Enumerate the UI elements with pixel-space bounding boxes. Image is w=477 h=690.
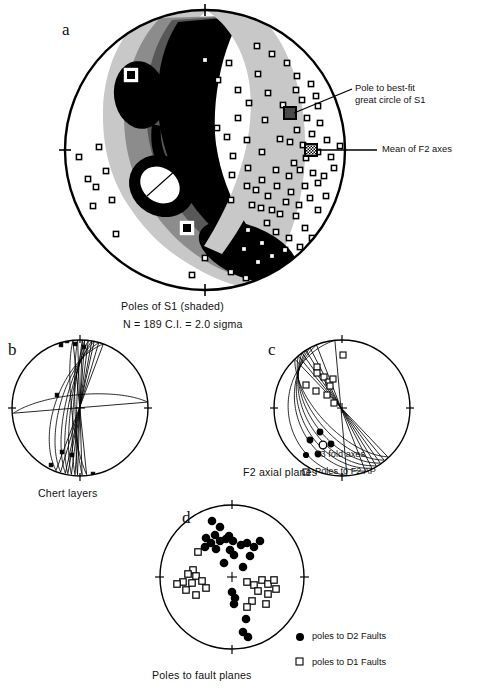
- pole-marker: [302, 183, 307, 188]
- pole-marker: [259, 240, 264, 245]
- panel-a-letter: a: [62, 20, 70, 40]
- pole-marker: [246, 100, 251, 105]
- chert-layer-pole-marker: [73, 342, 77, 346]
- pole-marker: [284, 60, 289, 65]
- pole-marker: [315, 207, 320, 212]
- pole-marker: [90, 203, 95, 208]
- legend-d1-faults-symbol: [296, 658, 303, 665]
- pole-marker: [273, 229, 278, 234]
- pole-to-d1-fault-marker: [183, 587, 189, 593]
- pole-marker: [255, 71, 260, 76]
- pole-to-d1-fault-marker: [255, 588, 261, 594]
- pole-marker: [304, 115, 309, 120]
- density-maximum-marker: [128, 72, 135, 79]
- pole-marker: [297, 167, 302, 172]
- legend-d1-faults-label: poles to D1 Faults: [312, 657, 386, 667]
- legend-d2-faults-symbol: [296, 633, 304, 641]
- pole-marker: [299, 97, 304, 102]
- pole-marker: [224, 134, 229, 139]
- pole-marker: [254, 43, 259, 48]
- pole-to-d1-fault-marker: [263, 601, 269, 607]
- mean-of-f2-axes-marker: [305, 144, 317, 156]
- panel-d-caption: Poles to fault planes: [152, 669, 252, 681]
- panel-d-letter: d: [182, 508, 191, 528]
- pole-to-f2-ap-marker: [324, 392, 330, 398]
- panel-d-stereonet: [155, 500, 309, 654]
- pole-marker: [293, 87, 298, 92]
- pole-marker: [274, 183, 279, 188]
- pole-marker: [244, 137, 249, 142]
- pole-to-d2-fault-marker: [201, 543, 210, 552]
- pole-to-d2-fault-marker: [244, 633, 253, 642]
- pole-marker: [253, 187, 258, 192]
- pole-marker: [255, 259, 260, 264]
- pole-to-d1-fault-marker: [271, 577, 277, 583]
- pole-to-d2-fault-marker: [229, 537, 238, 546]
- pole-to-f2-ap-marker: [313, 388, 319, 394]
- pole-to-d1-fault-marker: [203, 585, 209, 591]
- pole-marker: [214, 125, 219, 130]
- pole-marker: [294, 127, 299, 132]
- pole-marker: [321, 173, 326, 178]
- pole-to-f2-ap-marker: [303, 382, 309, 388]
- pole-marker: [286, 173, 291, 178]
- pole-to-d1-fault-marker: [195, 549, 201, 555]
- pole-marker: [282, 247, 287, 252]
- pole-marker: [265, 90, 270, 95]
- pole-to-f2-ap-marker: [314, 370, 320, 376]
- f3-fold-axis-marker: [317, 429, 324, 436]
- pole-marker: [229, 172, 234, 177]
- pole-to-f2-ap-marker: [330, 376, 336, 382]
- pole-marker: [245, 165, 250, 170]
- pole-marker: [269, 51, 274, 56]
- chert-layer-pole-marker: [55, 393, 59, 397]
- pole-marker: [302, 225, 307, 230]
- pole-marker: [85, 176, 90, 181]
- pole-to-d2-fault-marker: [216, 523, 225, 532]
- pole-marker: [202, 57, 207, 62]
- pole-marker: [93, 184, 98, 189]
- pole-to-d1-fault-marker: [199, 578, 205, 584]
- pole-marker: [259, 149, 264, 154]
- pole-to-d1-fault-marker: [244, 604, 250, 610]
- pole-marker: [317, 120, 322, 125]
- density-maximum-marker: [184, 225, 191, 232]
- pole-marker: [249, 202, 254, 207]
- pole-marker: [269, 207, 274, 212]
- pole-marker: [109, 197, 114, 202]
- pole-marker: [103, 168, 108, 173]
- annotation-mean-f2-axes: Mean of F2 axes: [382, 143, 452, 155]
- pole-to-d2-fault-marker: [246, 552, 255, 561]
- chert-layer-pole-marker: [82, 345, 86, 349]
- pole-marker: [277, 136, 282, 141]
- panel-b-letter: b: [8, 340, 17, 360]
- pole-to-d2-fault-marker: [208, 517, 217, 526]
- annotation-pole-best-fit-line2: great circle of S1: [355, 94, 425, 106]
- pole-to-f2-ap-marker: [340, 352, 346, 358]
- pole-to-d1-fault-marker: [185, 571, 191, 577]
- pole-marker: [228, 269, 233, 274]
- pole-marker: [307, 195, 312, 200]
- f3-fold-axis-marker: [328, 441, 335, 448]
- pole-to-f2-ap-marker: [314, 364, 320, 370]
- pole-to-d2-fault-marker: [256, 537, 265, 546]
- pole-to-d2-fault-marker: [230, 551, 239, 560]
- pole-marker: [235, 87, 240, 92]
- pole-marker: [337, 143, 342, 148]
- panel-a-density-contours: [103, 8, 312, 296]
- chert-layer-pole-marker: [60, 450, 64, 454]
- pole-marker: [264, 220, 269, 225]
- pole-marker: [258, 205, 263, 210]
- pole-marker: [241, 246, 246, 251]
- pole-to-f2-ap-marker: [327, 383, 333, 389]
- pole-marker: [287, 139, 292, 144]
- pole-marker: [308, 81, 313, 86]
- pole-marker: [230, 153, 235, 158]
- pole-marker: [309, 131, 314, 136]
- pole-marker: [96, 144, 101, 149]
- chert-layer-pole-marker: [49, 463, 53, 467]
- pole-to-d1-fault-marker: [193, 592, 199, 598]
- pole-marker: [315, 180, 320, 185]
- pole-to-d1-fault-marker: [189, 580, 195, 586]
- pole-marker: [269, 253, 274, 258]
